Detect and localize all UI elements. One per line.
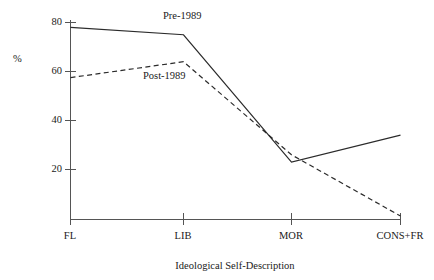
x-tick-label-lib: LIB <box>175 231 192 242</box>
x-tick-label-fl: FL <box>64 231 76 242</box>
y-tick-label-40: 40 <box>38 115 62 126</box>
series-label-pre-1989: Pre-1989 <box>163 11 202 22</box>
y-tick-label-60: 60 <box>38 66 62 77</box>
axes-group <box>71 20 402 220</box>
x-tick-label-consfr: CONS+FR <box>377 231 424 242</box>
series-line-post-1989 <box>71 62 401 216</box>
y-tick-label-20: 20 <box>38 164 62 175</box>
y-tick-label-80: 80 <box>38 17 62 28</box>
chart-container: 80 60 40 20 % FL LIB MOR CONS+FR Ideolog… <box>0 0 434 280</box>
y-axis-title: % <box>13 54 22 65</box>
series-line-pre-1989 <box>71 27 401 162</box>
x-axis-title: Ideological Self-Description <box>175 261 294 272</box>
x-tick-label-mor: MOR <box>279 231 303 242</box>
series-label-post-1989: Post-1989 <box>143 71 186 82</box>
